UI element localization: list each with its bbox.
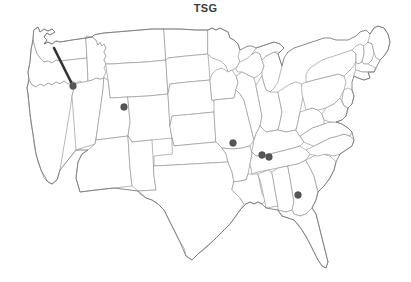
state-minnesota (208, 28, 240, 72)
state-texas (138, 162, 244, 260)
data-point-idaho[interactable] (70, 83, 77, 90)
data-point-kentucky-tennessee-border-east[interactable] (266, 154, 273, 161)
state-kansas (170, 112, 216, 146)
state-iowa (210, 68, 238, 100)
page-title: TSG (0, 2, 411, 14)
data-point-georgia[interactable] (295, 192, 302, 199)
data-point-kentucky-tennessee-border-west[interactable] (259, 152, 266, 159)
state-new-mexico (128, 136, 156, 191)
state-colorado (128, 94, 172, 142)
state-wyoming (106, 60, 168, 98)
state-california (27, 80, 75, 184)
us-state-map (0, 18, 411, 282)
state-boundaries (27, 26, 390, 268)
data-point-missouri[interactable] (230, 140, 237, 147)
map-canvas (0, 18, 411, 282)
figure-container: TSG (0, 0, 411, 282)
data-point-wyoming[interactable] (121, 104, 128, 111)
